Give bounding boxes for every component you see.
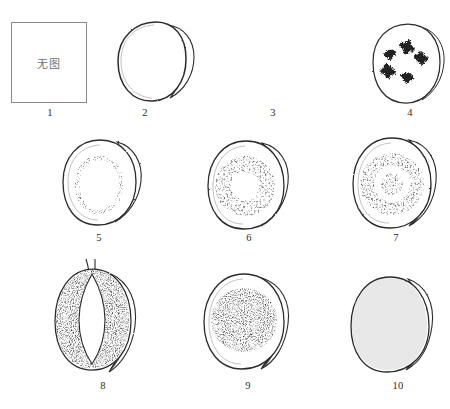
panel-caption-7: 7 (376, 232, 416, 243)
figure-9 (196, 268, 306, 378)
figure-3 (238, 14, 332, 110)
placeholder-box: 无图 (11, 22, 87, 103)
panel-caption-2: 2 (125, 107, 165, 118)
panel-caption-8: 8 (83, 380, 123, 391)
panel-caption-5: 5 (79, 232, 119, 243)
figure-4 (366, 18, 450, 110)
illustration-plate: 无图 1 (0, 0, 450, 409)
figure-8 (45, 258, 161, 378)
panel-caption-10: 10 (378, 380, 418, 391)
placeholder-label: 无图 (12, 23, 86, 102)
figure-10 (344, 266, 450, 378)
panel-caption-4: 4 (390, 107, 430, 118)
figure-6 (200, 134, 300, 234)
stipple-inner-oval-5 (55, 132, 153, 232)
stipple-full-10 (344, 266, 450, 378)
panel-caption-6: 6 (229, 232, 269, 243)
figure-7 (345, 132, 447, 234)
figure-2 (110, 16, 202, 108)
panel-caption-9: 9 (228, 380, 268, 391)
stipple-annulus-6 (200, 134, 300, 234)
panel-caption-3: 3 (253, 107, 293, 118)
shape-outline-2 (118, 22, 194, 101)
stipple-annulus-core-7 (345, 132, 447, 234)
stipple-body-8 (45, 258, 161, 378)
panel-caption-1: 1 (30, 107, 70, 118)
stipple-disc-9 (196, 268, 306, 378)
figure-5 (55, 132, 153, 232)
